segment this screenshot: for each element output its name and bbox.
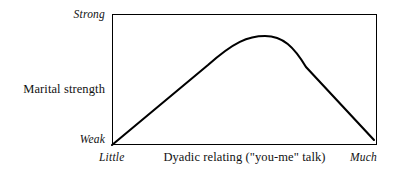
x-axis-title: Dyadic relating ("you-me" talk) xyxy=(112,151,377,164)
figure-container: Strong Marital strength Weak Little Dyad… xyxy=(0,0,405,173)
y-axis-low-label: Weak xyxy=(80,134,105,146)
y-axis-title: Marital strength xyxy=(23,83,105,96)
marital-strength-curve xyxy=(112,36,374,145)
y-axis-high-label: Strong xyxy=(74,9,105,21)
curve-chart xyxy=(112,14,377,145)
x-axis-high-label: Much xyxy=(350,152,377,164)
